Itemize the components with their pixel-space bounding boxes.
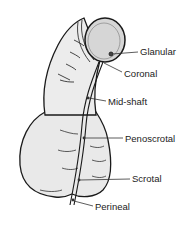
label-glanular: Glanular [140,47,176,57]
label-scrotal: Scrotal [132,174,162,184]
label-coronal: Coronal [124,69,157,79]
label-mid-shaft: Mid-shaft [108,97,147,107]
scrotum-shape [20,112,111,197]
glans-shape [85,18,125,62]
label-perineal: Perineal [95,202,130,212]
label-penoscrotal: Penoscrotal [125,134,175,144]
anatomy-illustration [0,0,192,225]
urethral-sites-diagram: Glanular Coronal Mid-shaft Penoscrotal S… [0,0,192,225]
